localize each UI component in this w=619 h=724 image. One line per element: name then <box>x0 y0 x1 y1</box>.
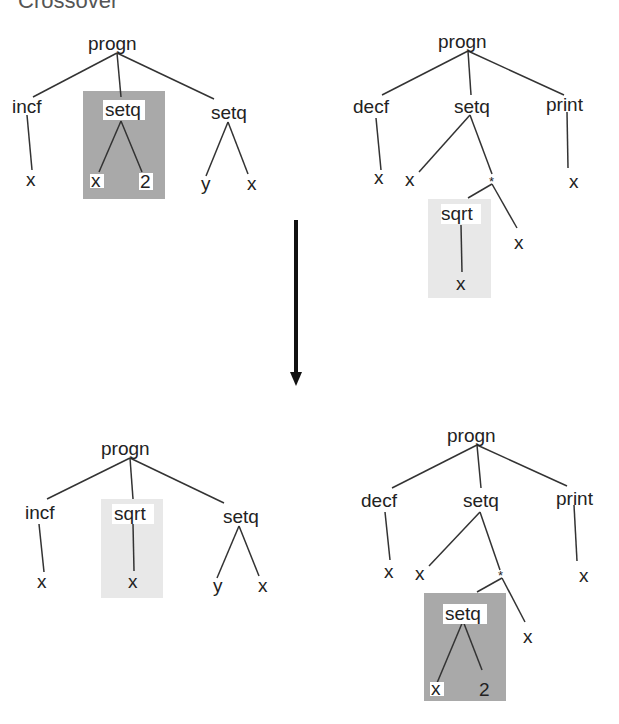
node-label: progn <box>447 425 496 446</box>
node-label: x <box>91 170 101 191</box>
node-label: y <box>201 173 211 194</box>
node-label: sqrt <box>441 203 473 224</box>
node-label: y <box>213 575 223 596</box>
node-label: setq <box>211 102 247 123</box>
node-label: print <box>556 488 594 509</box>
node-label: decf <box>361 490 398 511</box>
node-label: setq <box>454 96 490 117</box>
node-label: x <box>569 171 579 192</box>
node-label: x <box>374 167 384 188</box>
node-label: * <box>498 568 503 583</box>
node-label: x <box>579 565 589 586</box>
node-label: setq <box>223 506 259 527</box>
node-label: sqrt <box>114 503 146 524</box>
node-label: x <box>247 173 257 194</box>
arrow-head-icon <box>290 372 302 386</box>
node-label: x <box>523 626 533 647</box>
node-label: x <box>258 575 268 596</box>
node-label: x <box>405 169 415 190</box>
node-label: x <box>456 273 466 294</box>
node-label: x <box>37 571 47 592</box>
node-label: 2 <box>479 679 490 700</box>
node-label: 2 <box>140 171 151 192</box>
node-label: incf <box>12 96 42 117</box>
node-label: x <box>431 678 441 699</box>
node-label: decf <box>353 96 390 117</box>
node-label: progn <box>438 31 487 52</box>
node-label: * <box>489 174 494 189</box>
node-label: setq <box>105 99 141 120</box>
node-label: x <box>384 561 394 582</box>
node-label: x <box>26 169 36 190</box>
node-label: incf <box>25 502 55 523</box>
node-label: print <box>546 94 584 115</box>
node-label: setq <box>445 603 481 624</box>
crossover-diagram: progn incf setq setq x x 2 y x progn dec… <box>0 0 619 724</box>
node-label: x <box>514 232 524 253</box>
node-label: x <box>128 571 138 592</box>
node-label: progn <box>88 33 137 54</box>
node-label: progn <box>101 438 150 459</box>
node-label: x <box>415 563 425 584</box>
node-label: setq <box>463 490 499 511</box>
